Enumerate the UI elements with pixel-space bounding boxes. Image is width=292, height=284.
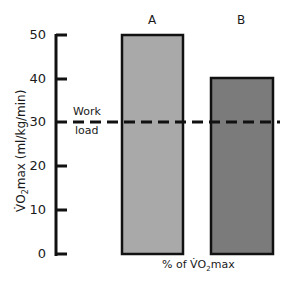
bar-label-a: A [142, 13, 162, 27]
bar-a [122, 35, 183, 254]
y-tick-label-0: 0 [24, 247, 46, 261]
y-tick-label-50: 50 [24, 28, 46, 42]
y-axis-label: V̇O2max (ml/kg/min) [14, 90, 30, 212]
bar-label-b: B [231, 13, 251, 27]
workload-label-line1: Work [73, 106, 101, 118]
bar-b [211, 78, 273, 254]
chart-canvas [0, 0, 292, 284]
y-tick-label-40: 40 [24, 72, 46, 86]
workload-label-line2: load [75, 125, 99, 137]
x-axis-label: % of V̇O2max [162, 258, 235, 273]
